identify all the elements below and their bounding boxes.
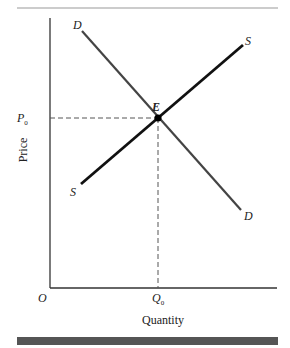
supply-label-top: S — [245, 34, 251, 48]
supply-demand-figure: D D S S E P0 Q0 O Quantity Price — [0, 0, 290, 348]
x-axis-title: Quantity — [142, 313, 184, 327]
bottom-bar — [17, 337, 278, 345]
demand-curve — [82, 31, 241, 210]
quantity-equilibrium-label: Q0 — [152, 291, 165, 307]
demand-label-top: D — [72, 18, 82, 32]
supply-label-bottom: S — [70, 185, 76, 199]
origin-label: O — [38, 291, 47, 305]
equilibrium-point — [154, 114, 161, 121]
y-axis-title: Price — [16, 138, 30, 163]
price-equilibrium-label: P0 — [16, 111, 28, 127]
supply-curve — [81, 45, 243, 184]
demand-label-bottom: D — [243, 209, 253, 223]
equilibrium-label: E — [151, 100, 160, 114]
